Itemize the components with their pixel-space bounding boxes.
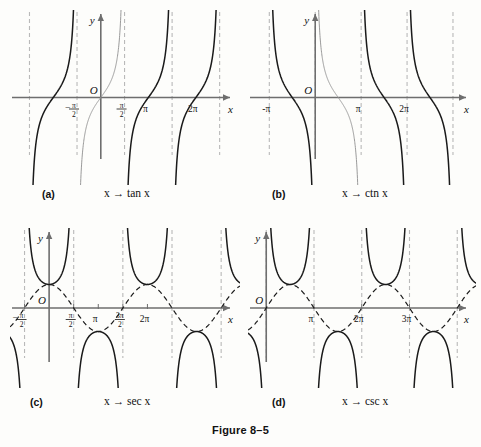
panel-sec: yxO−π2π2π3π22π bbox=[10, 228, 240, 388]
x-tick-label: π2 bbox=[66, 311, 76, 329]
x-axis-label: x bbox=[463, 103, 469, 115]
panel-caption-a: (a) bbox=[42, 188, 55, 200]
function-curve bbox=[77, 332, 119, 388]
x-tick-label: 2π bbox=[188, 104, 198, 114]
figure-container: yxO−π2π2π2π (a) x → tan x yxO-ππ2π (b) x… bbox=[0, 0, 481, 447]
tick-numerator: π bbox=[69, 311, 73, 320]
function-curve bbox=[270, 228, 310, 284]
x-tick-labels: −π2π2π2π bbox=[65, 101, 198, 119]
function-curve bbox=[10, 332, 21, 388]
x-tick-labels: -ππ2π bbox=[262, 104, 409, 114]
y-axis-arrow bbox=[312, 14, 318, 21]
tick-sign: − bbox=[65, 103, 70, 113]
y-axis-arrow bbox=[46, 232, 52, 239]
x-tick-label: 3π bbox=[402, 314, 412, 324]
function-curve bbox=[318, 332, 358, 388]
x-axis-label: x bbox=[463, 313, 469, 325]
y-axis-label: y bbox=[303, 14, 309, 26]
x-tick-label: 3π2 bbox=[115, 311, 125, 329]
tick-denominator: 2 bbox=[120, 110, 124, 119]
plot-csc: yxOπ2π3π bbox=[248, 228, 476, 388]
figure-title: Figure 8–5 bbox=[0, 424, 481, 436]
x-tick-label: 2π bbox=[354, 314, 364, 324]
x-tick-label: 2π bbox=[140, 314, 150, 324]
plot-ctn: yxO-ππ2π bbox=[248, 10, 476, 185]
panel-tan: yxO−π2π2π2π bbox=[10, 10, 240, 185]
function-curve bbox=[365, 228, 405, 284]
origin-label: O bbox=[304, 84, 312, 96]
x-tick-label: -π bbox=[262, 104, 270, 114]
function-curve bbox=[248, 332, 263, 388]
origin-label: O bbox=[90, 84, 98, 96]
x-axis-label: x bbox=[227, 103, 233, 115]
x-axis-label: x bbox=[227, 313, 233, 325]
asymptote-group bbox=[266, 230, 457, 358]
x-tick-label: 2π bbox=[399, 104, 409, 114]
panel-function-label-d: x → csc x bbox=[342, 395, 388, 407]
tick-denominator: 2 bbox=[72, 110, 76, 119]
asymptote-group bbox=[269, 12, 453, 155]
y-axis-label: y bbox=[254, 232, 260, 244]
panel-csc: yxOπ2π3π bbox=[248, 228, 476, 388]
panel-function-label-c: x → sec x bbox=[104, 395, 150, 407]
function-curve bbox=[127, 228, 169, 284]
y-axis-label: y bbox=[37, 232, 43, 244]
axes-group: yxO bbox=[250, 14, 469, 159]
origin-label: O bbox=[255, 294, 263, 306]
axes-group: yxO bbox=[250, 232, 469, 362]
asymptote-group bbox=[25, 230, 222, 358]
x-tick-labels: π2π3π bbox=[309, 304, 412, 324]
origin-label: O bbox=[38, 294, 46, 306]
x-tick-label: π bbox=[93, 314, 98, 324]
tick-numerator: π bbox=[120, 101, 124, 110]
panel-caption-c: (c) bbox=[30, 396, 43, 408]
tick-denominator: 2 bbox=[69, 320, 73, 329]
tick-denominator: 2 bbox=[20, 320, 24, 329]
panel-ctn: yxO-ππ2π bbox=[248, 10, 476, 185]
asymptote-group bbox=[29, 12, 219, 155]
y-axis-arrow bbox=[263, 232, 269, 239]
x-axis-arrow bbox=[223, 305, 230, 311]
plot-tan: yxO−π2π2π2π bbox=[10, 10, 240, 185]
plot-sec: yxO−π2π2π3π22π bbox=[10, 228, 240, 388]
panel-caption-b: (b) bbox=[272, 188, 285, 200]
y-axis-label: y bbox=[89, 14, 95, 26]
function-curve bbox=[176, 332, 218, 388]
x-axis-arrow bbox=[459, 94, 466, 100]
x-axis-arrow bbox=[459, 305, 466, 311]
function-curve bbox=[461, 228, 476, 284]
function-curve bbox=[413, 332, 453, 388]
x-tick-label: π bbox=[309, 314, 314, 324]
x-tick-label: −π2 bbox=[13, 311, 27, 329]
panel-function-label-a: x → tan x bbox=[104, 187, 150, 199]
panel-caption-d: (d) bbox=[272, 396, 285, 408]
x-axis-arrow bbox=[223, 94, 230, 100]
panel-function-label-b: x → ctn x bbox=[342, 187, 388, 199]
axes-group: yxO bbox=[12, 14, 233, 159]
function-curve bbox=[225, 228, 240, 284]
x-tick-label: π bbox=[356, 104, 361, 114]
y-axis-arrow bbox=[98, 14, 104, 21]
tick-denominator: 2 bbox=[118, 320, 122, 329]
tick-numerator: π bbox=[72, 101, 76, 110]
